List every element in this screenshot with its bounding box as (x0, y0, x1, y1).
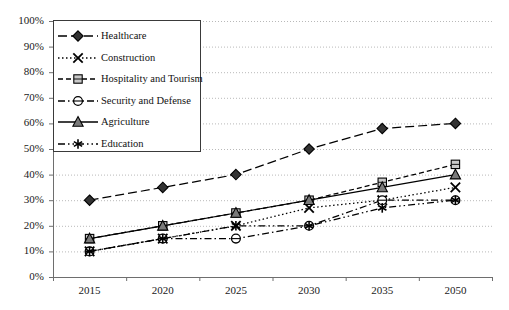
legend-swatch-x-cross-icon (57, 48, 99, 68)
legend-item-healthcare[interactable]: Healthcare (54, 25, 202, 47)
y-tick-label: 70% (2, 92, 44, 103)
line-chart: 0%10%20%30%40%50%60%70%80%90%100% 201520… (0, 0, 509, 310)
y-tick-label: 10% (2, 245, 44, 256)
legend-swatch-circle-icon (57, 91, 99, 111)
data-point-triangle (450, 169, 460, 179)
y-tick-label: 50% (2, 143, 44, 154)
data-point-diamond (73, 31, 83, 41)
legend-label: Construction (101, 52, 155, 64)
data-point-diamond (450, 118, 460, 128)
series-line (90, 200, 456, 251)
y-tick-label: 60% (2, 117, 44, 128)
x-tick-label: 2020 (133, 285, 193, 296)
x-tick-label: 2035 (352, 285, 412, 296)
series-line (90, 187, 456, 251)
legend-item-construction[interactable]: Construction (54, 47, 202, 69)
legend-swatch-triangle-icon (57, 112, 99, 132)
legend-label: Agriculture (101, 116, 149, 128)
y-tick-label: 0% (2, 271, 44, 282)
data-point-diamond (231, 169, 241, 179)
y-tick-label: 80% (2, 66, 44, 77)
legend-item-hospitality-and-tourism[interactable]: Hospitality and Tourism (54, 68, 202, 90)
data-point-diamond (158, 182, 168, 192)
x-tick-label: 2025 (206, 285, 266, 296)
y-tick-label: 30% (2, 194, 44, 205)
y-tick-label: 20% (2, 220, 44, 231)
legend-item-agriculture[interactable]: Agriculture (54, 111, 202, 133)
series-construction (85, 183, 460, 256)
x-tick-label: 2015 (60, 285, 120, 296)
legend-item-security-and-defense[interactable]: Security and Defense (54, 90, 202, 112)
legend-item-education[interactable]: Education (54, 133, 202, 155)
legend-label: Education (101, 138, 144, 150)
legend-label: Security and Defense (101, 95, 191, 107)
series-hospitality-and-tourism (85, 160, 459, 243)
x-tick-label: 2030 (279, 285, 339, 296)
x-tick-label: 2050 (425, 285, 485, 296)
data-point-diamond (377, 123, 387, 133)
series-line (90, 200, 456, 251)
legend-swatch-asterisk-icon (57, 134, 99, 154)
legend-label: Healthcare (101, 30, 146, 42)
legend-swatch-diamond-icon (57, 26, 99, 46)
y-tick-label: 40% (2, 169, 44, 180)
y-tick-label: 100% (2, 15, 44, 26)
y-tick-label: 90% (2, 41, 44, 52)
legend-label: Hospitality and Tourism (101, 73, 203, 85)
data-point-diamond (304, 144, 314, 154)
chart-legend: HealthcareConstructionHospitality and To… (53, 20, 201, 152)
data-point-diamond (84, 195, 94, 205)
legend-swatch-square-icon (57, 69, 99, 89)
